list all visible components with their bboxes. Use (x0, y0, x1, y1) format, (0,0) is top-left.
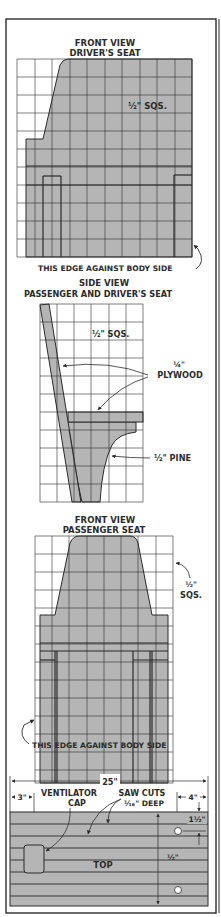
left-offset-label: 3" (17, 793, 26, 802)
driver-edge-arrow (194, 245, 202, 269)
side-scale-label: ½" SQS. (92, 329, 129, 339)
front-view-passenger-seat: FRONT VIEW PASSENGER SEAT (22, 515, 202, 783)
back-plywood (40, 304, 81, 502)
front-view-driver-seat: FRONT VIEW DRIVER'S SEAT (17, 38, 202, 273)
ventilator-label-2: CAP (68, 799, 86, 808)
top-label: TOP (93, 860, 112, 870)
side-view-seat: SIDE VIEW PASSENGER AND DRIVER'S SEAT ½"… (24, 278, 203, 502)
driver-seat-shape (26, 59, 192, 257)
top-view-board: 25" 3" 4" VENTILATOR CAP SAW CUTS ¹⁄₁₆" … (10, 774, 208, 906)
driver-edge-note: THIS EDGE AGAINST BODY SIDE (38, 264, 172, 273)
pine-label: ½" PINE (154, 453, 191, 463)
mount-hole-upper (175, 828, 182, 835)
side-title-line1: SIDE VIEW (79, 278, 130, 288)
overall-width-label: 25" (102, 777, 118, 787)
ventilator-label-1: VENTILATOR (41, 789, 97, 798)
plywood-arrow-back (63, 364, 148, 375)
side-title-line2: PASSENGER AND DRIVER'S SEAT (24, 289, 173, 299)
saw-cuts-label-1: SAW CUTS (119, 789, 166, 798)
passenger-scale-label-2: SQS. (180, 590, 202, 600)
driver-title-line2: DRIVER'S SEAT (69, 48, 140, 58)
passenger-title-line2: PASSENGER SEAT (63, 525, 146, 535)
passenger-title-line1: FRONT VIEW (75, 515, 136, 525)
driver-scale-label: ½" SQS. (128, 101, 167, 111)
seat-templates-diagram: FRONT VIEW DRIVER'S SEAT (0, 0, 221, 917)
hole-offset-label: 1½" (188, 815, 205, 824)
pine-arrow (112, 456, 150, 458)
passenger-edge-note: THIS EDGE AGAINST BODY SIDE (32, 741, 166, 750)
plywood-arrow-seat (98, 377, 148, 410)
right-offset-label: 4" (188, 793, 197, 802)
seat-plywood (68, 412, 143, 422)
board-depth-label: ½" (167, 853, 179, 862)
saw-cuts-label-2: ¹⁄₁₆" DEEP (124, 799, 165, 808)
passenger-scale-label-1: ½" (185, 580, 197, 589)
plywood-thickness: ¼" (173, 360, 185, 369)
driver-title-line1: FRONT VIEW (75, 38, 136, 48)
ventilator-cap (24, 845, 44, 873)
plywood-label: PLYWOOD (157, 370, 203, 380)
mount-hole-lower (175, 887, 182, 894)
passenger-scale-arrow (176, 563, 190, 578)
